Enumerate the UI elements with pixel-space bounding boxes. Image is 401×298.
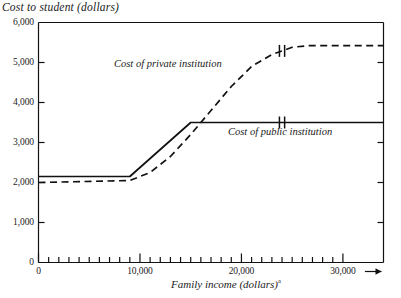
break-marks-group bbox=[279, 45, 284, 129]
y-axis-ticks bbox=[39, 63, 384, 223]
y-axis-tick-label: 6,000 bbox=[0, 17, 34, 27]
x-axis-title: Family income (dollars)a bbox=[171, 277, 281, 290]
x-axis-tick-label: 30,000 bbox=[318, 266, 368, 276]
annotation-public-institution: Cost of public institution bbox=[228, 126, 332, 137]
annotation-private-institution: Cost of private institution bbox=[114, 58, 222, 69]
x-axis-tick-label: 10,000 bbox=[115, 266, 165, 276]
x-axis-tick-label: 0 bbox=[14, 266, 64, 276]
y-axis-tick-label: 4,000 bbox=[0, 97, 34, 107]
x-axis-tick-label: 20,000 bbox=[216, 266, 266, 276]
y-axis-tick-label: 1,000 bbox=[0, 217, 34, 227]
y-axis-tick-label: 5,000 bbox=[0, 57, 34, 67]
chart-figure: Cost to student (dollars) 01,0002,0003,0… bbox=[0, 0, 401, 298]
x-axis-title-text: Family income (dollars) bbox=[171, 278, 278, 290]
x-axis-footnote-marker: a bbox=[278, 277, 281, 284]
chart-plot-area bbox=[0, 0, 401, 298]
x-axis-ticks bbox=[39, 254, 343, 263]
y-axis-tick-label: 3,000 bbox=[0, 137, 34, 147]
y-axis-tick-label: 2,000 bbox=[0, 177, 34, 187]
